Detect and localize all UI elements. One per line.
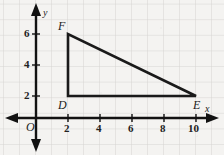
x-tick-label-2: 2: [64, 123, 70, 134]
y-tick-label-2: 2: [24, 90, 30, 101]
y-axis-label: y: [43, 8, 47, 18]
x-axis-label: x: [205, 104, 209, 114]
x-tick-label-8: 8: [160, 123, 166, 134]
vertex-label-D: D: [58, 99, 67, 111]
x-tick-label-4: 4: [96, 123, 102, 134]
x-tick-label-6: 6: [128, 123, 134, 134]
coordinate-plane-figure: y x O 2 4 6 8 10 2 4 6 F D E: [0, 0, 224, 155]
vertex-label-F: F: [58, 20, 65, 32]
x-tick-label-10: 10: [188, 123, 199, 134]
y-tick-label-4: 4: [24, 59, 30, 70]
vertex-label-E: E: [193, 99, 200, 111]
y-tick-label-6: 6: [24, 28, 30, 39]
origin-label: O: [26, 121, 35, 133]
